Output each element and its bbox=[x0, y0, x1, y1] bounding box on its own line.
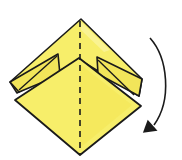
arrowhead-icon bbox=[143, 120, 160, 138]
turn-arrow-curve bbox=[150, 38, 166, 125]
origami-diagram bbox=[0, 0, 182, 160]
